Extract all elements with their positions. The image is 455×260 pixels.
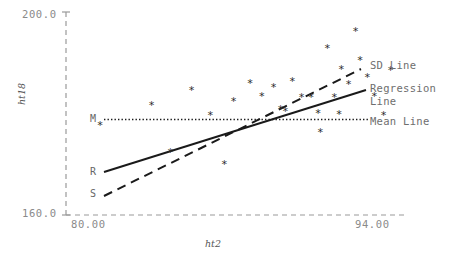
data-point: * (338, 63, 345, 76)
x-axis-tick-max: 94.00 (355, 218, 390, 230)
data-point: * (221, 158, 228, 171)
data-point: * (357, 54, 364, 67)
data-point: * (282, 105, 289, 118)
data-point: * (317, 126, 324, 139)
legend-label-regression-line: Regression Line (370, 82, 452, 108)
scatter-points-group: **************************** (97, 25, 394, 171)
legend-label-sd-line: SD Line (370, 59, 416, 72)
data-point: * (148, 99, 155, 112)
data-point: * (188, 84, 195, 97)
x-axis-title: ht2 (205, 238, 221, 249)
data-point: * (336, 108, 343, 121)
y-axis-tick-min: 160.0 (22, 207, 57, 219)
y-axis-title: ht18 (16, 83, 27, 105)
data-point: * (352, 25, 359, 38)
scatter-plot-figure: **************************** 200.0 160.0… (0, 0, 455, 260)
data-point: * (258, 90, 265, 103)
data-point: * (167, 146, 174, 159)
data-point: * (331, 91, 338, 104)
data-point: * (298, 91, 305, 104)
x-axis-tick-min: 80.00 (71, 218, 106, 230)
data-point: * (230, 95, 237, 108)
regression-line-marker: R (90, 166, 96, 177)
data-point: * (270, 81, 277, 94)
data-point: * (207, 109, 214, 122)
sd-line-marker: S (90, 188, 96, 199)
data-point: * (247, 77, 254, 90)
y-axis-tick-max: 200.0 (22, 8, 57, 20)
data-point: * (315, 107, 322, 120)
data-point: * (308, 91, 315, 104)
data-point: * (345, 78, 352, 91)
mean-line-marker: M (90, 113, 96, 124)
data-point: * (289, 75, 296, 88)
legend-label-mean-line: Mean Line (370, 115, 430, 128)
data-point: * (324, 42, 331, 55)
data-point: * (97, 119, 104, 132)
